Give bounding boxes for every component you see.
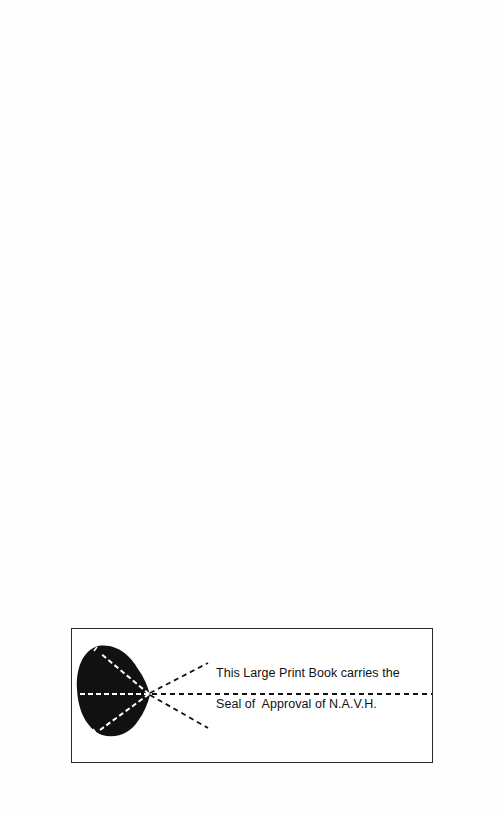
navh-seal-box: This Large Print Book carries the Seal o… [71,628,433,763]
seal-text-line-1: This Large Print Book carries the [216,666,400,680]
book-page: This Large Print Book carries the Seal o… [0,0,501,818]
seal-text-line-2: Seal of Approval of N.A.V.H. [216,697,377,711]
